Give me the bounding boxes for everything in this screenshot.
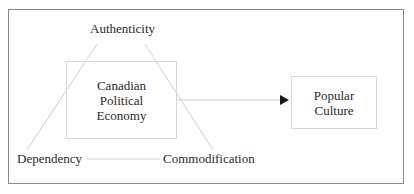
node-commodification: Commodification bbox=[163, 151, 255, 166]
box-canadian-political-economy: Canadian Political Economy bbox=[66, 61, 177, 139]
box-canadian-political-economy-label: Canadian Political Economy bbox=[97, 78, 147, 123]
arrowhead-icon bbox=[280, 95, 289, 105]
box-popular-culture: Popular Culture bbox=[291, 76, 377, 129]
node-authenticity: Authenticity bbox=[90, 21, 155, 36]
box-popular-culture-label: Popular Culture bbox=[314, 88, 354, 118]
node-dependency: Dependency bbox=[17, 151, 82, 166]
